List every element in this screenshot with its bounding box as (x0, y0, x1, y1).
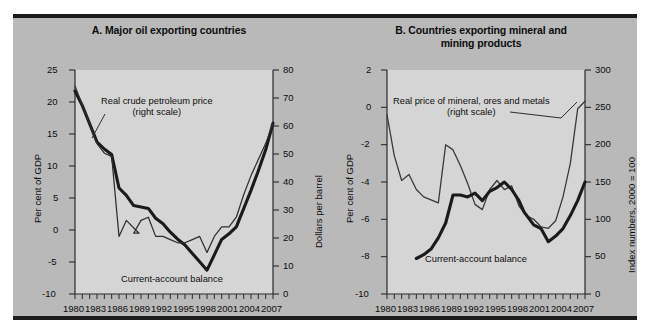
y2-tick-b-300: 300 (595, 64, 611, 75)
x-tick-b-1983: 1983 (397, 303, 418, 314)
y-tick-b-2: 2 (366, 64, 371, 75)
y-tick-a-0: 0 (53, 224, 58, 235)
y-tick-b-m4: -4 (361, 176, 369, 187)
y-tick-a-m5: -5 (48, 256, 56, 267)
annotation-mineral-price-line2: (right scale) (447, 107, 496, 117)
y-tick-b-m8: -8 (361, 250, 369, 261)
annotation-current-account-a-line1: Current-account balance (121, 274, 223, 284)
panel-a-svg (13, 18, 325, 316)
y2-tick-a-30: 30 (283, 204, 294, 215)
x-tick-b-1992: 1992 (463, 303, 484, 314)
x-tick-a-2007: 2007 (261, 303, 282, 314)
y-axis-title-b: Per cent of GDP (344, 154, 355, 223)
annotation-current-account-b: Current-account balance (425, 254, 527, 265)
y-tick-b-m10: -10 (355, 288, 369, 299)
panel-a: A. Major oil exporting countries (13, 18, 325, 316)
x-tick-b-2007: 2007 (573, 303, 594, 314)
x-tick-a-1986: 1986 (107, 303, 128, 314)
y2-tick-b-50: 50 (595, 250, 606, 261)
y-tick-a-20: 20 (47, 96, 58, 107)
panel-a-plot (13, 18, 325, 316)
x-tick-a-1980: 1980 (63, 303, 84, 314)
x-tick-b-2001: 2001 (529, 303, 550, 314)
x-tick-b-2004: 2004 (551, 303, 572, 314)
x-tick-a-1995: 1995 (173, 303, 194, 314)
y2-tick-a-10: 10 (283, 260, 294, 271)
panel-b: B. Countries exporting mineral and minin… (325, 18, 637, 316)
y-tick-a-m10: -10 (42, 288, 56, 299)
y2-tick-a-80: 80 (283, 64, 294, 75)
y2-tick-b-0: 0 (595, 288, 600, 299)
y2-tick-a-50: 50 (283, 148, 294, 159)
y2-tick-a-60: 60 (283, 120, 294, 131)
annotation-oil-price-line2: (right scale) (133, 107, 182, 117)
left-axis-ticks-b (381, 70, 387, 294)
annotation-mineral-price-line1: Real price of mineral, ores and metals (393, 96, 550, 106)
annotation-oil-price-line1: Real crude petroleum price (101, 96, 213, 106)
figure-frame: A. Major oil exporting countries (13, 14, 637, 320)
y-axis-title-a: Per cent of GDP (32, 154, 43, 223)
y-tick-b-m2: -2 (361, 138, 369, 149)
x-tick-b-1980: 1980 (375, 303, 396, 314)
y-tick-a-10: 10 (47, 160, 58, 171)
y2-tick-b-200: 200 (595, 138, 611, 149)
left-axis-ticks-a (69, 70, 75, 294)
x-axis-ticks-b (387, 294, 585, 299)
x-tick-a-2001: 2001 (217, 303, 238, 314)
y-tick-a-5: 5 (53, 192, 58, 203)
y2-tick-a-0: 0 (283, 288, 288, 299)
y2-axis-title-b: Index numbers, 2000 = 100 (626, 157, 637, 273)
y2-tick-b-100: 100 (595, 213, 611, 224)
y2-tick-b-150: 150 (595, 176, 611, 187)
panel-b-svg (325, 18, 637, 316)
x-tick-b-1995: 1995 (485, 303, 506, 314)
x-tick-b-1998: 1998 (507, 303, 528, 314)
y2-tick-a-40: 40 (283, 176, 294, 187)
annotation-current-account-b-line1: Current-account balance (425, 254, 527, 264)
right-axis-ticks-a (273, 70, 279, 294)
y-tick-b-0: 0 (366, 101, 371, 112)
x-tick-b-1989: 1989 (441, 303, 462, 314)
annotation-mineral-price: Real price of mineral, ores and metals (… (393, 96, 550, 118)
x-tick-a-1983: 1983 (85, 303, 106, 314)
x-tick-a-2004: 2004 (239, 303, 260, 314)
y-tick-b-m6: -6 (361, 213, 369, 224)
y2-tick-a-20: 20 (283, 232, 294, 243)
y-tick-a-15: 15 (47, 128, 58, 139)
panel-b-plot (325, 18, 637, 316)
annotation-current-account-a: Current-account balance (121, 274, 223, 285)
y2-axis-title-a: Dollars per barrel (313, 175, 324, 248)
x-tick-a-1989: 1989 (129, 303, 150, 314)
y-tick-a-25: 25 (47, 64, 58, 75)
x-axis-ticks-a (75, 294, 273, 299)
x-tick-a-1992: 1992 (151, 303, 172, 314)
x-tick-b-1986: 1986 (419, 303, 440, 314)
x-tick-a-1998: 1998 (195, 303, 216, 314)
annotation-oil-price: Real crude petroleum price (right scale) (101, 96, 213, 118)
y2-tick-b-250: 250 (595, 101, 611, 112)
y2-tick-a-70: 70 (283, 92, 294, 103)
